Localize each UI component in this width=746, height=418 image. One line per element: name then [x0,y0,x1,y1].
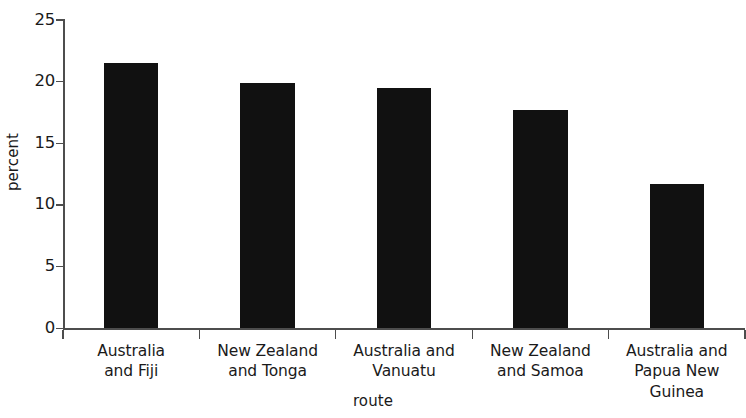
y-axis-tick-label: 5 [21,258,55,275]
y-axis-tick-mark [56,19,63,20]
x-axis-tick-mark [199,330,200,339]
x-axis-tick-mark [335,330,336,339]
y-axis-title: percent [4,122,22,202]
x-axis-title: route [0,392,746,410]
x-axis-category-label: New Zealand and Tonga [199,341,335,382]
x-axis-tick-mark [744,330,745,339]
bar [650,184,705,328]
x-axis-category-label: Australia and Fiji [63,341,199,382]
x-axis-category-label: New Zealand and Samoa [472,341,608,382]
y-axis-tick-mark [56,204,63,205]
bar [377,88,432,328]
y-axis-tick-mark [56,328,63,329]
y-axis-tick-label: 25 [21,12,55,29]
y-axis-tick-mark [56,266,63,267]
x-axis-tick-mark [608,330,609,339]
y-axis-tick-label: 15 [21,135,55,152]
y-axis-tick-label: 0 [21,320,55,337]
y-axis-tick-labels: 0510152025 [21,0,55,418]
bar [104,63,159,328]
bar [240,83,295,328]
y-axis-tick-mark [56,81,63,82]
bar-chart: percent 0510152025 Australia and FijiNew… [0,0,746,418]
bar [513,110,568,328]
y-axis-tick-mark [56,143,63,144]
y-axis-line [63,19,65,329]
x-axis-tick-mark [62,330,63,339]
y-axis-tick-label: 10 [21,196,55,213]
x-axis-tick-mark [472,330,473,339]
x-axis-category-label: Australia and Vanuatu [336,341,472,382]
y-axis-tick-label: 20 [21,73,55,90]
